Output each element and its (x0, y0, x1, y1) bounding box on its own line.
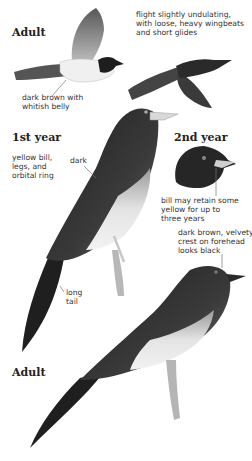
first-year-bill (150, 112, 178, 120)
first-year-eye (144, 110, 148, 114)
first-year-tail (22, 258, 64, 352)
note-belly-line: whitish belly (22, 102, 83, 111)
note-second-year-bill-line: bill may retain some (161, 196, 239, 205)
adult-perched-eye (214, 270, 218, 274)
second-year-eye (202, 156, 206, 160)
adult-flight-raised-wing (72, 8, 104, 66)
note-belly: dark brown with whitish belly (22, 93, 83, 111)
gliding-bird-tail (128, 66, 186, 100)
note-flight-line: and short glides (136, 28, 244, 37)
note-second-year-bill: bill may retain some yellow for up to th… (161, 196, 239, 223)
note-long-tail-line: tail (66, 297, 82, 306)
heading-adult-perched: Adult (12, 366, 45, 379)
note-flight-line: with loose, heavy wingbeats (136, 19, 244, 28)
second-year-head-shape (175, 146, 236, 188)
note-flight-line: flight slightly undulating, (136, 10, 244, 19)
second-year-head (175, 146, 236, 188)
gliding-bird-body (176, 59, 232, 78)
adult-flight-head (98, 57, 124, 73)
heading-adult-flight: Adult (12, 26, 45, 39)
adult-perched-bird (30, 266, 246, 448)
note-long-tail: long tail (66, 288, 82, 306)
adult-flight-bird (14, 8, 124, 82)
note-crest-line: looks black (178, 246, 252, 255)
adult-perched-tail (30, 372, 104, 448)
heading-first-year: 1st year (12, 131, 61, 144)
illustration-plate: Adult dark brown with whitish belly flig… (0, 0, 252, 461)
note-crest: dark brown, velvety crest on forehead lo… (178, 228, 252, 255)
leader-long-tail (60, 286, 64, 292)
note-first-year-bill-line: yellow bill, (12, 153, 54, 162)
note-first-year-bill-line: orbital ring (12, 171, 54, 180)
note-belly-line: dark brown with (22, 93, 83, 102)
note-dark-line: dark (70, 156, 87, 165)
note-crest-line: dark brown, velvety (178, 228, 252, 237)
gliding-bird (128, 59, 232, 108)
heading-second-year: 2nd year (174, 131, 228, 144)
note-crest-line: crest on forehead (178, 237, 252, 246)
note-second-year-bill-line: three years (161, 214, 239, 223)
note-flight: flight slightly undulating, with loose, … (136, 10, 244, 37)
note-first-year-bill: yellow bill, legs, and orbital ring (12, 153, 54, 180)
note-long-tail-line: long (66, 288, 82, 297)
adult-perched-perch (166, 360, 180, 420)
note-dark: dark (70, 156, 87, 165)
note-first-year-bill-line: legs, and (12, 162, 54, 171)
note-second-year-bill-line: yellow for up to (161, 205, 239, 214)
